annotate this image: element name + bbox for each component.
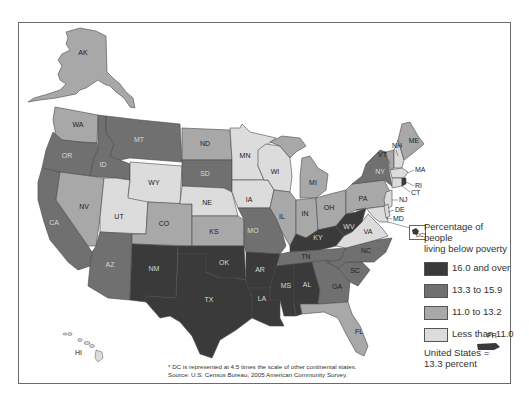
- label-mt: MT: [134, 136, 145, 143]
- label-co: CO: [159, 220, 170, 227]
- label-de: DE: [395, 206, 405, 213]
- legend-item-13-3-to-15-9: 13.3 to 15.9: [424, 282, 514, 300]
- label-ky: KY: [313, 234, 323, 241]
- label-nh: NH: [392, 142, 402, 149]
- label-nm: NM: [149, 265, 160, 272]
- label-la: LA: [258, 295, 267, 302]
- label-ga: GA: [332, 283, 342, 290]
- legend-note-line2: 13.3 percent: [424, 359, 514, 370]
- legend-swatch: [424, 328, 448, 342]
- legend-title: Percentage of people living below povert…: [424, 222, 514, 255]
- label-wi: WI: [271, 168, 280, 175]
- legend-item-16-plus: 16.0 and over: [424, 260, 514, 278]
- label-sd: SD: [200, 170, 210, 177]
- label-ne: NE: [202, 199, 212, 206]
- label-or: OR: [62, 152, 73, 159]
- label-nj: NJ: [399, 196, 408, 203]
- label-vt: VT: [378, 151, 388, 158]
- label-me: ME: [409, 137, 420, 144]
- state-nm: [130, 244, 178, 302]
- legend-us-note: United States = 13.3 percent: [424, 348, 514, 370]
- label-sc: SC: [350, 267, 360, 274]
- label-oh: OH: [324, 204, 335, 211]
- label-al: AL: [303, 281, 312, 288]
- label-az: AZ: [106, 261, 116, 268]
- label-ms: MS: [281, 282, 292, 289]
- label-ak: AK: [78, 49, 88, 56]
- label-wa: WA: [72, 121, 83, 128]
- footnote: * DC is represented at 4.5 times the sca…: [168, 363, 356, 380]
- label-ri: RI: [415, 182, 422, 189]
- state-hi: [63, 333, 103, 363]
- label-ks: KS: [209, 228, 219, 235]
- state-ak: [28, 28, 135, 108]
- footnote-source: Source: U.S. Census Bureau, 2005 America…: [168, 371, 356, 379]
- state-ia: [232, 180, 274, 208]
- label-ut: UT: [114, 213, 124, 220]
- state-ri: [402, 178, 406, 186]
- label-il: IL: [279, 213, 285, 220]
- legend-swatch: [424, 284, 448, 298]
- state-ma: [390, 168, 408, 178]
- label-ar: AR: [255, 266, 265, 273]
- legend-swatch: [424, 262, 448, 276]
- label-wy: WY: [148, 179, 160, 186]
- label-ca: CA: [49, 219, 59, 226]
- label-md: MD: [393, 215, 404, 222]
- label-nv: NV: [79, 203, 89, 210]
- state-ct: [392, 178, 402, 188]
- label-ma: MA: [415, 166, 426, 173]
- legend-item-11-to-13-2: 11.0 to 13.2: [424, 304, 514, 322]
- label-pa: PA: [359, 195, 368, 202]
- label-mo: MO: [247, 227, 259, 234]
- legend-label: Less than 11.0: [452, 329, 514, 340]
- legend-title-line1: Percentage of people: [424, 222, 514, 244]
- legend-label: 11.0 to 13.2: [452, 307, 501, 318]
- legend-label: 13.3 to 15.9: [452, 285, 502, 296]
- footnote-dc-scale: * DC is represented at 4.5 times the sca…: [168, 363, 356, 371]
- label-ia: IA: [246, 196, 253, 203]
- label-id: ID: [100, 161, 107, 168]
- legend-item-less-than-11: Less than 11.0: [424, 326, 514, 344]
- label-va: VA: [364, 228, 373, 235]
- label-mn: MN: [240, 152, 251, 159]
- label-ok: OK: [219, 259, 229, 266]
- label-nc: NC: [361, 247, 371, 254]
- label-ny: NY: [375, 168, 385, 175]
- label-hi: HI: [75, 349, 82, 356]
- label-nd: ND: [200, 140, 210, 147]
- label-tn: TN: [301, 253, 310, 260]
- label-wv: WV: [343, 223, 355, 230]
- legend-swatch: [424, 306, 448, 320]
- label-in: IN: [302, 210, 309, 217]
- label-tx: TX: [205, 296, 214, 303]
- dc-callout-line: [388, 222, 410, 228]
- label-fl: FL: [355, 328, 363, 335]
- label-ct: CT: [411, 189, 421, 196]
- label-mi: MI: [309, 179, 317, 186]
- legend-title-line2: living below poverty: [424, 244, 514, 255]
- legend-label: 16.0 and over: [452, 263, 510, 274]
- legend: Percentage of people living below povert…: [424, 222, 514, 370]
